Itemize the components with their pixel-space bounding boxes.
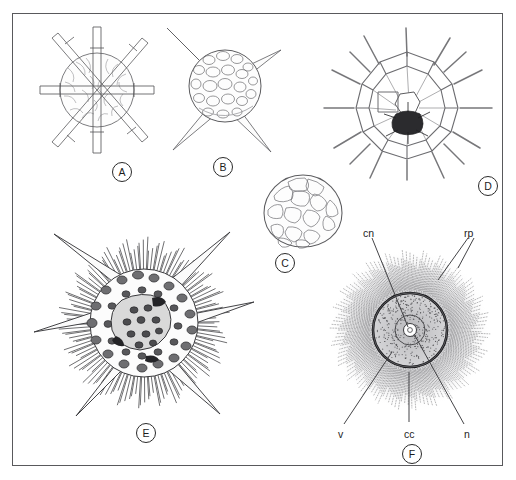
figure-d-drawing: [316, 22, 498, 182]
figure-e-specimen: [30, 228, 258, 418]
figure-c-specimen: [258, 172, 348, 250]
figure-f-drawing: [326, 244, 494, 416]
figure-b-specimen: [163, 24, 285, 154]
figure-b-drawing: [163, 24, 285, 154]
figure-label-e-text: E: [142, 427, 149, 439]
figure-label-f: F: [402, 444, 422, 464]
figure-label-a-text: A: [118, 166, 125, 178]
figure-label-a: A: [112, 162, 132, 182]
figure-e-drawing: [30, 228, 258, 418]
figure-d-specimen: [316, 22, 498, 182]
figure-label-b-text: B: [219, 161, 226, 173]
annotation-label-cc: cc: [404, 428, 415, 440]
figure-f-specimen: [326, 244, 494, 416]
annotation-label-v: v: [338, 428, 343, 440]
figure-label-b: B: [213, 157, 233, 177]
figure-a-specimen: [38, 24, 156, 156]
annotation-label-rp: rp: [464, 227, 473, 239]
figure-label-c-text: C: [281, 257, 289, 269]
illustration-plate: A: [0, 0, 516, 480]
figure-label-e: E: [136, 423, 156, 443]
figure-label-d: D: [478, 176, 498, 196]
figure-label-f-text: F: [409, 448, 415, 460]
annotation-label-n: n: [464, 428, 470, 440]
figure-a-drawing: [38, 24, 156, 156]
figure-c-drawing: [258, 172, 348, 250]
figure-label-d-text: D: [484, 180, 492, 192]
figure-label-c: C: [275, 253, 295, 273]
annotation-label-cn: cn: [363, 227, 374, 239]
